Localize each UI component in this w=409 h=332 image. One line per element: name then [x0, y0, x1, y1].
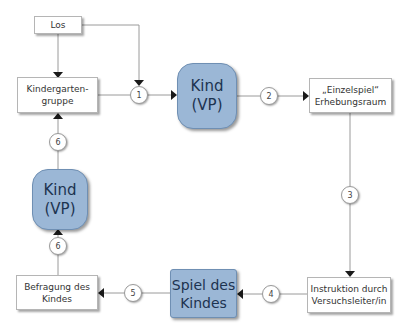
befragung-label-2: Kindes — [42, 293, 72, 305]
step-3-badge: 3 — [341, 186, 359, 204]
kind-bottom-label-1: Kind — [43, 181, 76, 200]
step-2-label: 2 — [266, 92, 271, 101]
kind-top-label-1: Kind — [190, 77, 223, 96]
einzelspiel-label-1: „Einzelspiel“ — [322, 84, 379, 96]
los-label: Los — [50, 19, 65, 31]
einzelspiel-label-2: Erhebungsraum — [315, 96, 387, 108]
einzelspiel-box: „Einzelspiel“ Erhebungsraum — [309, 78, 392, 113]
step-6-lower-badge: 6 — [49, 237, 67, 255]
step-6-upper-label: 6 — [55, 138, 60, 147]
step-4-label: 4 — [268, 290, 273, 299]
kind-bottom-label-2: (VP) — [44, 200, 75, 219]
kind-top-label-2: (VP) — [191, 96, 222, 115]
instruktion-label-1: Instruktion durch — [311, 283, 388, 295]
kindergartengruppe-box: Kindergarten- gruppe — [17, 77, 98, 113]
step-2-badge: 2 — [260, 87, 278, 105]
step-4-badge: 4 — [262, 285, 280, 303]
los-box: Los — [34, 16, 82, 34]
kind-vp-top-node: Kind (VP) — [177, 63, 237, 129]
step-1-badge: 1 — [130, 86, 148, 104]
step-3-label: 3 — [347, 191, 352, 200]
instruktion-box: Instruktion durch Versuchsleiter/in — [307, 277, 391, 313]
kindergartengruppe-label-2: gruppe — [41, 95, 73, 107]
spiel-des-kindes-node: Spiel des Kindes — [170, 269, 237, 318]
kind-vp-bottom-node: Kind (VP) — [32, 169, 88, 230]
step-1-label: 1 — [136, 91, 141, 100]
step-6-lower-label: 6 — [55, 242, 60, 251]
instruktion-label-2: Versuchsleiter/in — [312, 295, 387, 307]
befragung-label-1: Befragung des — [24, 281, 90, 293]
spiel-label-1: Spiel des — [172, 276, 235, 294]
step-5-badge: 5 — [124, 284, 142, 302]
kindergartengruppe-label-1: Kindergarten- — [27, 83, 89, 95]
spiel-label-2: Kindes — [180, 294, 227, 312]
befragung-box: Befragung des Kindes — [16, 275, 98, 310]
step-6-upper-badge: 6 — [49, 133, 67, 151]
step-5-label: 5 — [130, 289, 135, 298]
